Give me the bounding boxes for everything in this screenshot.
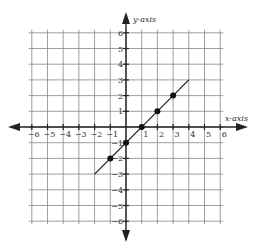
axes [8,12,248,242]
y-tick-label: −1 [111,139,123,148]
x-tick-label: 5 [206,130,211,139]
y-tick-label: 1 [118,107,123,116]
y-tick-label: −3 [111,170,123,179]
data-point [107,155,113,161]
x-axis-left-arrow-icon [8,123,20,131]
y-tick-label: 4 [118,60,123,69]
data-point [154,108,160,114]
x-tick-label: 2 [159,130,164,139]
x-tick-label: 6 [222,130,227,139]
x-axis-right-arrow-icon [236,123,248,131]
data-point [170,93,176,99]
y-axis-label: y-axis [132,15,156,24]
x-tick-label: −4 [59,130,71,139]
y-tick-label: −6 [111,217,123,226]
x-tick-label: −3 [75,130,87,139]
y-axis-down-arrow-icon [122,230,130,242]
coordinate-plane: −6−5−4−3−2−1123456654321−1−2−3−4−5−6 x-a… [0,0,258,247]
x-tick-label: −2 [91,130,103,139]
x-tick-label: −6 [28,130,40,139]
y-tick-label: 5 [118,45,123,54]
x-tick-label: 3 [175,130,180,139]
data-point [139,124,145,130]
x-tick-label: 1 [143,130,148,139]
y-axis-up-arrow-icon [122,12,130,24]
data-point [123,140,129,146]
x-tick-label: −1 [106,130,118,139]
y-tick-label: −4 [111,186,123,195]
y-tick-label: 3 [118,76,123,85]
y-tick-label: −5 [111,202,123,211]
y-tick-label: 6 [118,29,123,38]
y-tick-label: 2 [118,92,123,101]
x-tick-label: −5 [44,130,56,139]
x-axis-label: x-axis [225,114,248,123]
x-tick-label: 4 [190,130,195,139]
